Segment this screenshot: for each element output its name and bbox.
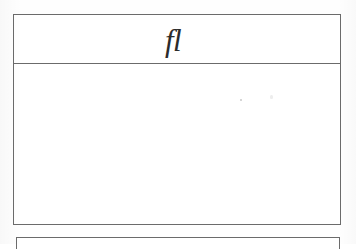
- scan-speck-icon: [240, 99, 242, 101]
- table-main: fl: [13, 14, 341, 225]
- fl-ligature-italic-glyph: fl: [165, 25, 181, 56]
- table-next-partial: [16, 237, 340, 249]
- table-header-row: fl: [14, 15, 340, 64]
- table-body-cell: [14, 64, 340, 224]
- scan-showthrough-icon: [270, 95, 273, 99]
